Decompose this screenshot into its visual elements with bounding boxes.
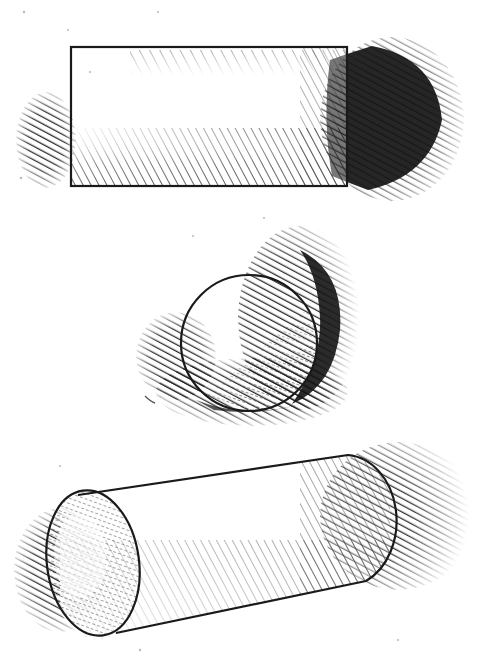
drawing-plate: Three shaded geometric forms Pencil plat… [0,0,490,661]
rectangle-cast-shadow-left [16,92,76,188]
plate-canvas [0,0,490,661]
